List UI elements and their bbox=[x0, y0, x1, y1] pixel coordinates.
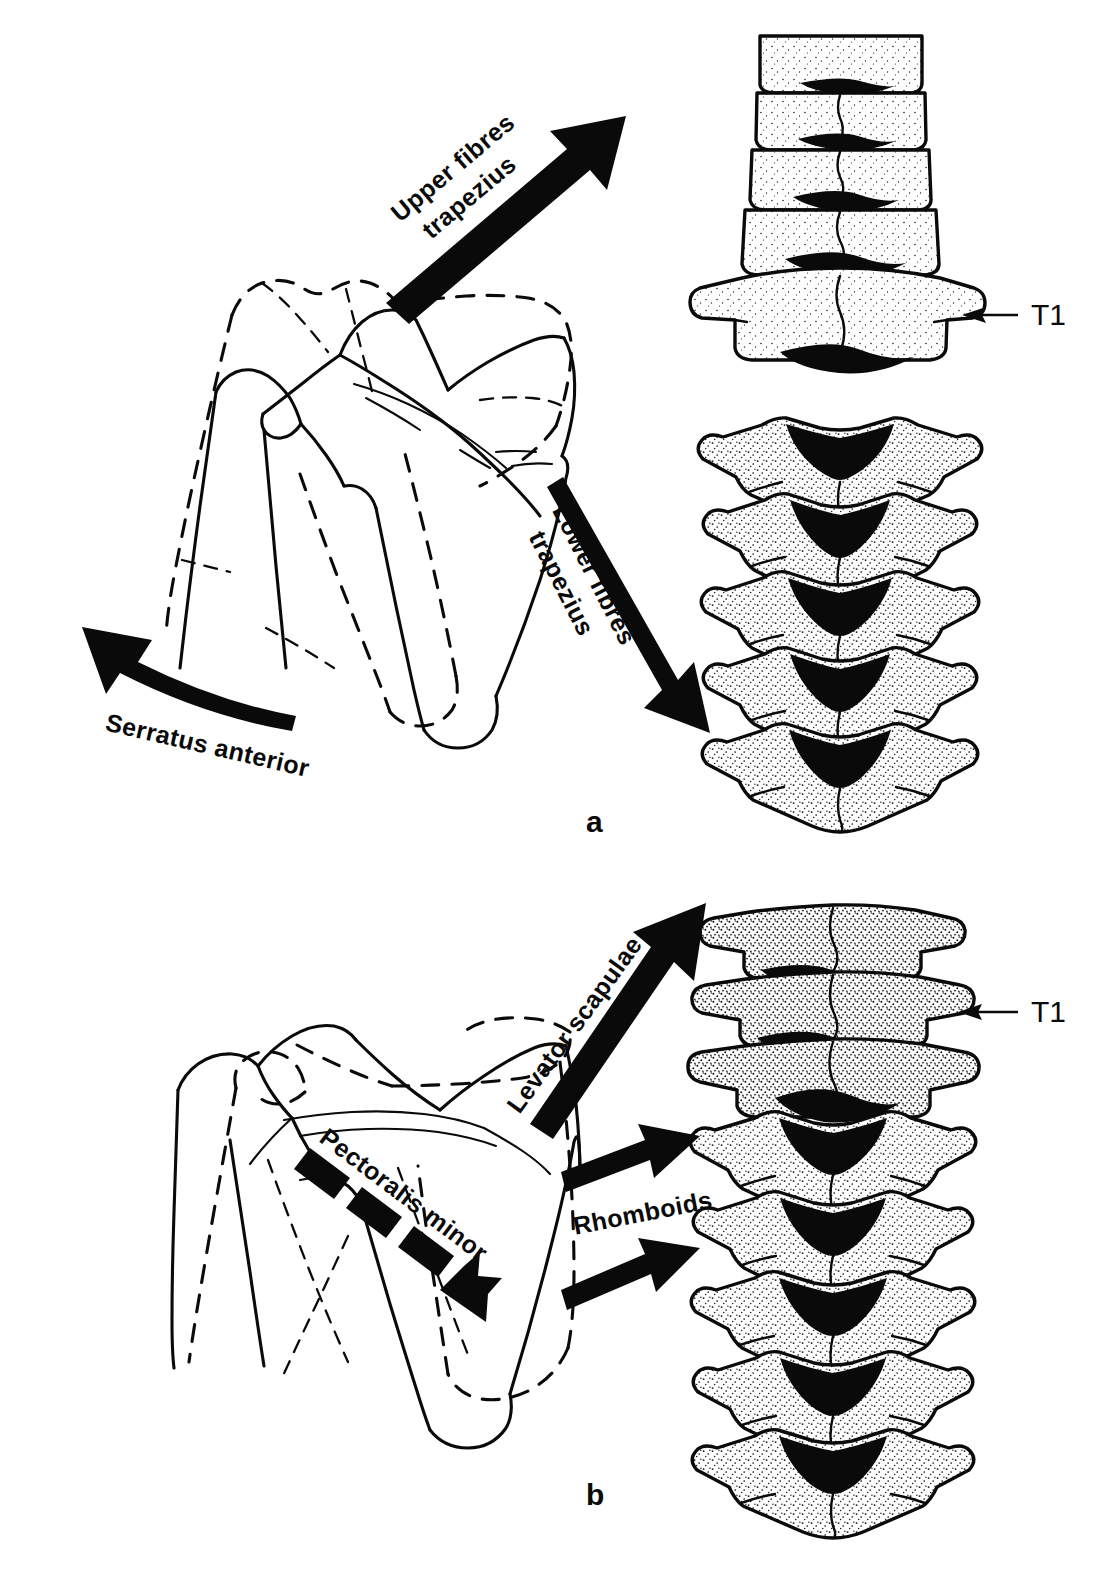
panel-b: T1 bbox=[172, 903, 1066, 1538]
t1-label-panel-a: T1 bbox=[1031, 298, 1066, 331]
figure-canvas: T1 bbox=[0, 0, 1111, 1581]
panel-a-label: a bbox=[586, 805, 603, 838]
panel-b-label: b bbox=[586, 1478, 604, 1511]
panel-a: T1 bbox=[82, 36, 1066, 838]
thoracic-vertebrae-group bbox=[698, 418, 982, 832]
arrow-rhomboids-lower bbox=[561, 1238, 700, 1310]
t1-label-panel-b: T1 bbox=[1031, 995, 1066, 1028]
rhomboids-label: Rhomboids bbox=[571, 1185, 715, 1239]
arrow-serratus-anterior: Serratus anterior bbox=[82, 627, 312, 782]
anatomy-figure: T1 bbox=[0, 0, 1111, 1581]
arrow-levator-scapulae: Levator scapulae bbox=[501, 903, 706, 1139]
panel-a-vertebral-column: T1 bbox=[690, 36, 1066, 832]
label-lower-fibres-trapezius: Lower fibres trapezius bbox=[518, 500, 642, 664]
panel-b-vertebral-column: T1 bbox=[688, 905, 1066, 1538]
cervical-vertebrae-group bbox=[690, 36, 985, 373]
label-rhomboids: Rhomboids bbox=[571, 1185, 715, 1239]
arrow-rhomboids-upper bbox=[561, 1124, 700, 1192]
arrow-lower-fibres-trapezius: Lower fibres trapezius bbox=[518, 477, 710, 733]
arrow-pectoralis-minor: Pectoralis minor bbox=[294, 1122, 502, 1322]
panel-a-scapula bbox=[166, 280, 575, 748]
arrow-upper-fibres-trapezius: Upper fibres trapezius bbox=[385, 108, 626, 324]
